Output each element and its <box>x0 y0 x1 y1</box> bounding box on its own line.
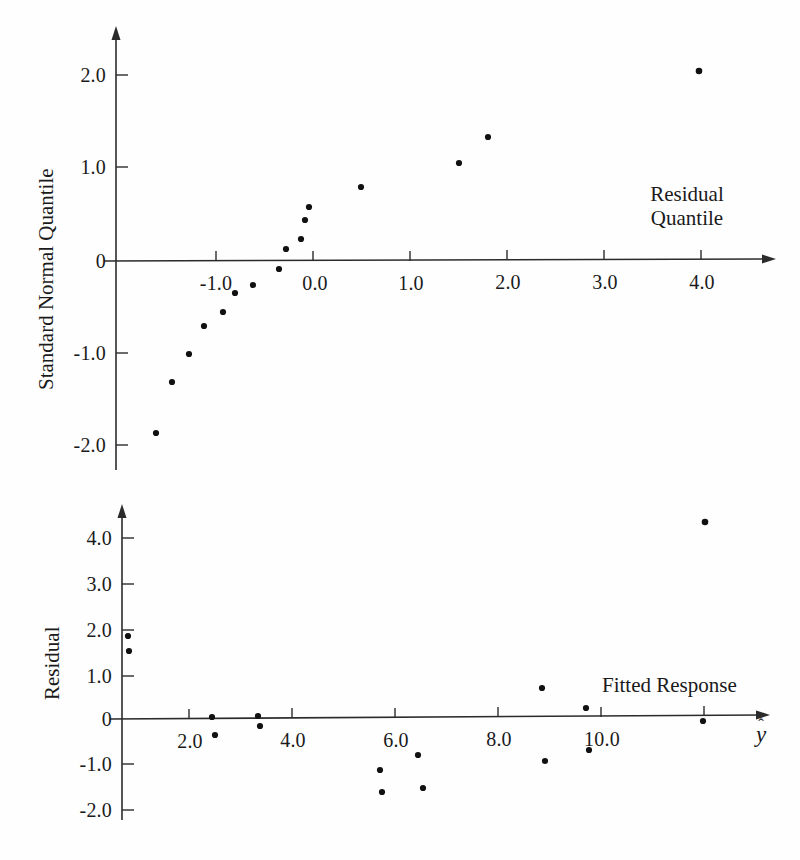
residual-x-axis-title: Fitted Response <box>602 673 737 697</box>
figure-page: 2.0 1.0 0 -1.0 -2.0 -1.0 0.0 1.0 2.0 3.0… <box>0 0 800 860</box>
qq-ytick-label: 0 <box>54 250 106 273</box>
residual-xtick-label: 2.0 <box>177 730 203 753</box>
data-point <box>539 685 545 691</box>
normal-quantile-plot-panel: 2.0 1.0 0 -1.0 -2.0 -1.0 0.0 1.0 2.0 3.0… <box>0 0 800 470</box>
qq-xtick-label: 0.0 <box>302 272 328 295</box>
residual-y-axis-title: Residual <box>40 627 64 701</box>
residual-xtick-label: 8.0 <box>486 728 512 751</box>
data-point <box>255 713 261 719</box>
data-point <box>415 752 421 758</box>
residual-data-points <box>125 519 708 795</box>
residual-ytick-label: 2.0 <box>58 619 112 642</box>
qq-xtick-label: 2.0 <box>495 271 521 294</box>
data-point <box>201 323 207 329</box>
residual-xtick-label: 6.0 <box>383 729 409 752</box>
data-point <box>169 379 175 385</box>
data-point <box>379 789 385 795</box>
qq-x-axis <box>104 254 776 263</box>
data-point <box>700 718 706 724</box>
qq-x-axis-title: Residual Quantile <box>612 182 762 230</box>
qq-xtick-label: 3.0 <box>592 271 618 294</box>
qq-xtick-label: -1.0 <box>200 272 232 295</box>
residual-y-ticks <box>122 538 134 810</box>
data-point <box>153 430 159 436</box>
y-hat-letter: y <box>756 722 766 747</box>
qq-x-axis-title-line1: Residual <box>612 182 762 206</box>
data-point <box>696 68 703 75</box>
y-hat-symbol: ̂ y <box>756 720 766 748</box>
data-point <box>220 309 226 315</box>
data-point <box>209 714 215 720</box>
residual-x-axis <box>110 710 770 719</box>
data-point <box>542 758 548 764</box>
data-point <box>283 246 289 252</box>
data-point <box>420 785 426 791</box>
residual-xtick-label: 4.0 <box>280 729 306 752</box>
data-point <box>186 351 192 357</box>
data-point <box>232 290 238 296</box>
residual-y-axis <box>118 504 127 820</box>
qq-y-axis-title: Standard Normal Quantile <box>34 168 58 390</box>
data-point <box>212 732 218 738</box>
qq-plot-canvas <box>0 0 800 470</box>
qq-ytick-label: -1.0 <box>54 342 106 365</box>
qq-data-points <box>153 68 702 436</box>
data-point <box>126 648 132 654</box>
data-point <box>257 723 263 729</box>
residual-plot-canvas <box>0 470 800 860</box>
qq-ytick-label: 2.0 <box>54 64 106 87</box>
residual-ytick-label: 3.0 <box>58 573 112 596</box>
residual-ytick-label: 4.0 <box>58 527 112 550</box>
data-point <box>358 184 364 190</box>
data-point <box>302 217 308 223</box>
qq-x-axis-title-line2: Quantile <box>612 206 762 230</box>
data-point <box>583 705 589 711</box>
data-point <box>702 519 709 526</box>
qq-y-axis <box>112 26 121 470</box>
data-point <box>125 633 131 639</box>
qq-ytick-label: -2.0 <box>54 434 106 457</box>
qq-ytick-label: 1.0 <box>54 156 106 179</box>
residual-ytick-label: -1.0 <box>58 753 112 776</box>
qq-xtick-label: 4.0 <box>689 271 715 294</box>
qq-xtick-label: 1.0 <box>398 272 424 295</box>
data-point <box>456 160 462 166</box>
residual-ytick-label: 1.0 <box>58 665 112 688</box>
data-point <box>250 282 256 288</box>
data-point <box>276 266 282 272</box>
data-point <box>298 236 304 242</box>
residual-plot-panel: 4.0 3.0 2.0 1.0 0 -1.0 -2.0 2.0 4.0 6.0 … <box>0 470 800 860</box>
data-point <box>306 204 312 210</box>
residual-xtick-label: 10.0 <box>584 728 620 751</box>
qq-y-ticks <box>116 75 128 445</box>
data-point <box>377 767 383 773</box>
residual-ytick-label: 0 <box>58 708 112 731</box>
data-point <box>485 134 491 140</box>
residual-ytick-label: -2.0 <box>58 799 112 822</box>
